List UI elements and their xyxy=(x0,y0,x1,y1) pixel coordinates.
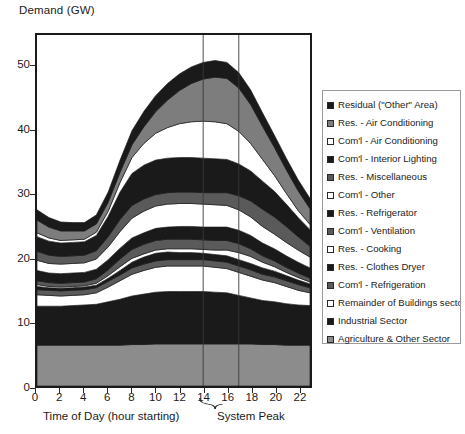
x-axis-tick-mark xyxy=(204,388,205,393)
legend-swatch-icon xyxy=(327,174,334,181)
legend-item[interactable]: Com'l - Other xyxy=(327,186,460,204)
x-axis-tick-mark xyxy=(228,388,229,393)
legend-swatch-icon xyxy=(327,192,334,199)
x-axis-tick-mark xyxy=(180,388,181,393)
legend-item-label: Com'l - Other xyxy=(338,186,395,204)
legend-item[interactable]: Res. - Miscellaneous xyxy=(327,168,460,186)
area-series xyxy=(37,344,310,386)
chart-root: Demand (GW) 01020304050 0246810121416182… xyxy=(0,0,465,434)
plot-area xyxy=(35,33,312,388)
legend-item[interactable]: Res. - Cooking xyxy=(327,240,460,258)
legend-swatch-icon xyxy=(327,282,334,289)
legend-item-label: Com'l - Ventilation xyxy=(338,222,415,240)
legend-item-label: Res. - Cooking xyxy=(338,240,401,258)
legend-swatch-icon xyxy=(327,318,334,325)
x-axis-title: Time of Day (hour starting) xyxy=(43,410,179,422)
legend-item-label: Com'l - Interior Lighting xyxy=(338,150,437,168)
legend-swatch-icon xyxy=(327,138,334,145)
legend-swatch-icon xyxy=(327,246,334,253)
legend-item[interactable]: Com'l - Refrigeration xyxy=(327,276,460,294)
legend-item-label: Res. - Air Conditioning xyxy=(338,114,433,132)
x-axis-tick-mark xyxy=(107,388,108,393)
legend-item[interactable]: Com'l - Air Conditioning xyxy=(327,132,460,150)
legend-item[interactable]: Res. - Clothes Dryer xyxy=(327,258,460,276)
x-axis-tick-mark xyxy=(300,388,301,393)
legend-item[interactable]: Com'l - Interior Lighting xyxy=(327,150,460,168)
x-axis-tick-mark xyxy=(252,388,253,393)
x-axis-tick-mark xyxy=(83,388,84,393)
legend-item[interactable]: Industrial Sector xyxy=(327,312,460,330)
legend-item-label: Remainder of Buildings sector xyxy=(338,294,460,312)
legend-item[interactable]: Res. - Refrigerator xyxy=(327,204,460,222)
legend-swatch-icon xyxy=(327,300,334,307)
x-axis-tick-mark xyxy=(35,388,36,393)
legend-swatch-icon xyxy=(327,120,334,127)
system-peak-brace xyxy=(198,398,246,410)
x-axis-tick-mark xyxy=(276,388,277,393)
legend-item-label: Agriculture & Other Sector xyxy=(338,330,450,348)
legend-item-label: Res. - Clothes Dryer xyxy=(338,258,425,276)
legend-swatch-icon xyxy=(327,156,334,163)
legend-item-label: Residual ("Other" Area) xyxy=(338,96,438,114)
legend-item-label: Com'l - Refrigeration xyxy=(338,276,426,294)
legend-swatch-icon xyxy=(327,336,334,343)
legend-item[interactable]: Remainder of Buildings sector xyxy=(327,294,460,312)
stacked-area-plot xyxy=(37,35,310,386)
legend-item[interactable]: Agriculture & Other Sector xyxy=(327,330,460,348)
legend-item[interactable]: Residual ("Other" Area) xyxy=(327,96,460,114)
legend-item[interactable]: Com'l - Ventilation xyxy=(327,222,460,240)
system-peak-label: System Peak xyxy=(217,410,285,422)
legend-swatch-icon xyxy=(327,264,334,271)
legend-item-label: Res. - Miscellaneous xyxy=(338,168,427,186)
legend-item-label: Industrial Sector xyxy=(338,312,407,330)
x-axis-tick-mark xyxy=(59,388,60,393)
x-axis-tick-mark xyxy=(131,388,132,393)
legend: Residual ("Other" Area)Res. - Air Condit… xyxy=(322,90,461,344)
legend-item[interactable]: Res. - Air Conditioning xyxy=(327,114,460,132)
legend-item-label: Com'l - Air Conditioning xyxy=(338,132,438,150)
x-axis-tick-mark xyxy=(155,388,156,393)
legend-item-label: Res. - Refrigerator xyxy=(338,204,417,222)
legend-swatch-icon xyxy=(327,210,334,217)
legend-swatch-icon xyxy=(327,228,334,235)
legend-swatch-icon xyxy=(327,102,334,109)
